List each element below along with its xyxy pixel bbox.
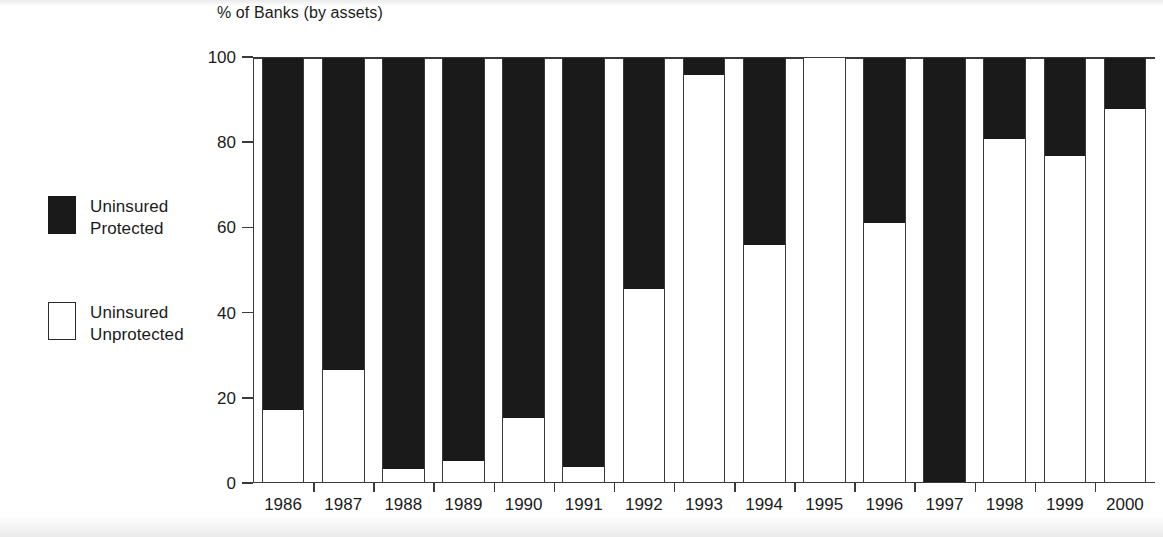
x-axis-tick	[794, 483, 796, 492]
bar-segment-protected	[323, 58, 364, 370]
bar-slot	[734, 57, 794, 483]
y-axis-tick	[242, 397, 253, 399]
bar-slot	[614, 57, 674, 483]
x-axis-tick	[1095, 483, 1097, 492]
bar-slot	[433, 57, 493, 483]
bar-segment-unprotected	[443, 461, 484, 482]
stacked-bar[interactable]	[262, 57, 305, 483]
stacked-bar[interactable]	[562, 57, 605, 483]
x-axis-tick-label: 1992	[625, 496, 663, 513]
bar-segment-protected	[984, 58, 1025, 139]
y-axis-tick-label: 40	[217, 304, 236, 321]
bar-slot	[794, 57, 854, 483]
bar-slot	[915, 57, 975, 483]
y-axis-tick	[242, 482, 253, 484]
bar-segment-unprotected	[684, 75, 725, 482]
bar-segment-protected	[383, 58, 424, 469]
x-axis-tick	[734, 483, 736, 492]
bar-segment-protected	[924, 58, 965, 482]
bar-segment-protected	[563, 58, 604, 467]
bar-segment-protected	[263, 58, 304, 410]
bar-slot	[494, 57, 554, 483]
x-axis-tick-label: 1995	[805, 496, 843, 513]
x-axis-tick	[975, 483, 977, 492]
x-axis-tick-label: 2000	[1106, 496, 1144, 513]
x-axis-tick	[433, 483, 435, 492]
x-axis-tick	[914, 483, 916, 492]
bar-segment-protected	[503, 58, 544, 418]
bar-slot	[975, 57, 1035, 483]
bar-segment-protected	[1045, 58, 1086, 156]
stacked-bar[interactable]	[983, 57, 1026, 483]
bar-slot	[1035, 57, 1095, 483]
x-axis-tick	[674, 483, 676, 492]
stacked-bar[interactable]	[1044, 57, 1087, 483]
x-axis-tick-label: 1998	[986, 496, 1024, 513]
plot-area: 020406080100 198619871988198919901991199…	[253, 57, 1155, 483]
bar-segment-unprotected	[503, 418, 544, 482]
bar-segment-unprotected	[1105, 109, 1146, 482]
x-axis-tick-label: 1989	[445, 496, 483, 513]
x-axis-tick-label: 1990	[505, 496, 543, 513]
bar-segment-protected	[864, 58, 905, 223]
x-axis-tick-label: 1986	[264, 496, 302, 513]
stacked-bar[interactable]	[803, 57, 846, 483]
x-axis-tick-label: 1993	[685, 496, 723, 513]
bar-segment-protected	[744, 58, 785, 245]
bar-group	[253, 57, 1155, 483]
bar-segment-unprotected	[624, 289, 665, 482]
x-axis-tick	[614, 483, 616, 492]
bar-segment-unprotected	[563, 467, 604, 482]
stacked-bar[interactable]	[502, 57, 545, 483]
stacked-bar[interactable]	[923, 57, 966, 483]
stacked-bar-chart: % of Banks (by assets) 020406080100 1986…	[0, 0, 1163, 537]
bar-slot	[554, 57, 614, 483]
x-axis-tick-label: 1996	[865, 496, 903, 513]
bar-segment-unprotected	[984, 139, 1025, 482]
bar-segment-unprotected	[383, 469, 424, 482]
stacked-bar[interactable]	[442, 57, 485, 483]
x-axis-tick	[313, 483, 315, 492]
bar-slot	[253, 57, 313, 483]
stacked-bar[interactable]	[382, 57, 425, 483]
stacked-bar[interactable]	[623, 57, 666, 483]
bar-slot	[854, 57, 914, 483]
bar-segment-unprotected	[323, 370, 364, 482]
x-axis-tick-label: 1997	[926, 496, 964, 513]
y-axis-tick-label: 80	[217, 134, 236, 151]
bar-segment-unprotected	[804, 58, 845, 482]
bar-segment-protected	[1105, 58, 1146, 109]
x-axis-tick	[554, 483, 556, 492]
bar-segment-unprotected	[1045, 156, 1086, 482]
y-axis-tick	[242, 56, 253, 58]
stacked-bar[interactable]	[322, 57, 365, 483]
x-axis-tick	[854, 483, 856, 492]
x-axis-tick-label: 1991	[565, 496, 603, 513]
bar-segment-protected	[684, 58, 725, 75]
y-axis-tick	[242, 227, 253, 229]
bar-slot	[674, 57, 734, 483]
x-axis-tick	[373, 483, 375, 492]
bar-segment-unprotected	[263, 410, 304, 482]
bar-segment-protected	[443, 58, 484, 461]
x-axis-tick-label: 1994	[745, 496, 783, 513]
y-axis-tick-label: 60	[217, 219, 236, 236]
y-axis-tick	[242, 312, 253, 314]
x-axis-tick-label: 1999	[1046, 496, 1084, 513]
bar-slot	[373, 57, 433, 483]
y-axis-tick-label: 20	[217, 389, 236, 406]
y-axis-title: % of Banks (by assets)	[217, 4, 383, 22]
y-axis-tick-label: 100	[208, 49, 236, 66]
stacked-bar[interactable]	[683, 57, 726, 483]
x-axis-tick	[1035, 483, 1037, 492]
bar-segment-protected	[624, 58, 665, 289]
bar-segment-unprotected	[864, 223, 905, 482]
stacked-bar[interactable]	[1104, 57, 1147, 483]
y-axis-tick	[242, 141, 253, 143]
bar-slot	[1095, 57, 1155, 483]
stacked-bar[interactable]	[863, 57, 906, 483]
bar-slot	[313, 57, 373, 483]
x-axis-tick-label: 1988	[384, 496, 422, 513]
x-axis-tick	[494, 483, 496, 492]
stacked-bar[interactable]	[743, 57, 786, 483]
